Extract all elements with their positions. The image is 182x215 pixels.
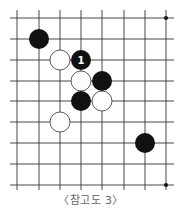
star-point-icon bbox=[164, 183, 168, 187]
black-stone-icon bbox=[92, 71, 112, 91]
white-stone-icon bbox=[50, 112, 70, 132]
black-stone-icon bbox=[135, 133, 155, 153]
white-stone-icon bbox=[50, 50, 70, 70]
diagram-caption: 〈참고도 3〉 bbox=[0, 191, 182, 207]
star-point-icon bbox=[164, 16, 168, 20]
move-number-label: 1 bbox=[78, 55, 85, 66]
black-stone-icon bbox=[71, 91, 91, 111]
stones: 1 bbox=[29, 29, 155, 153]
go-board-diagram: 1 bbox=[0, 0, 182, 200]
black-stone-icon bbox=[29, 29, 49, 49]
white-stone-icon bbox=[92, 91, 112, 111]
white-stone-icon bbox=[71, 71, 91, 91]
